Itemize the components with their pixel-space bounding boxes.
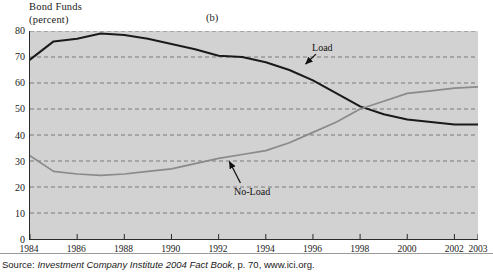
series-line-load <box>30 34 478 125</box>
series-line-no-load <box>30 87 478 175</box>
page-title: Bond Funds (percent) <box>29 1 82 26</box>
footer-divider <box>0 253 493 254</box>
y-axis-tick-label: 50 <box>3 104 25 114</box>
plot-area <box>29 31 478 240</box>
y-axis-tick-label: 70 <box>3 52 25 62</box>
panel-letter: (b) <box>206 12 218 23</box>
y-axis-tick-label: 20 <box>3 183 25 193</box>
title-line-2: (percent) <box>29 14 82 27</box>
chart-canvas <box>30 31 478 239</box>
title-line-1: Bond Funds <box>29 1 82 14</box>
annotation-arrow <box>306 54 316 64</box>
y-axis-tick-label: 40 <box>3 131 25 141</box>
y-axis-tick-label: 80 <box>3 26 25 36</box>
series-label-no-load: No-Load <box>234 186 270 197</box>
source-prefix: Source: <box>2 259 37 270</box>
annotation-arrow <box>229 162 240 183</box>
chart-page: Bond Funds (percent) (b) 010203040506070… <box>0 0 493 277</box>
y-axis-tick-label: 60 <box>3 78 25 88</box>
source-title: Investment Company Institute 2004 Fact B… <box>37 259 232 270</box>
y-axis-tick-label: 30 <box>3 157 25 167</box>
series-label-load: Load <box>312 42 333 53</box>
y-axis-tick-label: 10 <box>3 209 25 219</box>
source-suffix: , p. 70, www.ici.org. <box>232 259 314 270</box>
source-note: Source: Investment Company Institute 200… <box>2 259 315 270</box>
